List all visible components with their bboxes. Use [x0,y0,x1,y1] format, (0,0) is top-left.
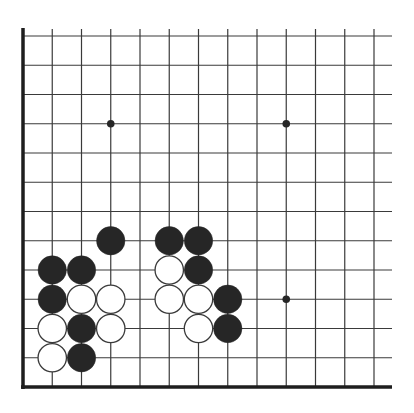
white-stone[interactable] [155,256,183,284]
white-stone[interactable] [38,314,66,342]
star-point-icon [282,295,290,303]
black-stone[interactable] [97,227,125,255]
white-stone[interactable] [184,314,212,342]
white-stone[interactable] [155,285,183,313]
star-point-icon [107,120,115,128]
white-stone[interactable] [184,285,212,313]
black-stone[interactable] [67,344,95,372]
star-point-icon [282,120,290,128]
black-stone[interactable] [67,314,95,342]
black-stone[interactable] [155,227,183,255]
white-stone[interactable] [97,314,125,342]
white-stone[interactable] [38,344,66,372]
go-board[interactable] [0,0,414,413]
black-stone[interactable] [38,285,66,313]
white-stone[interactable] [97,285,125,313]
white-stone[interactable] [67,285,95,313]
black-stone[interactable] [184,227,212,255]
black-stone[interactable] [67,256,95,284]
black-stone[interactable] [38,256,66,284]
black-stone[interactable] [214,314,242,342]
black-stone[interactable] [214,285,242,313]
black-stone[interactable] [184,256,212,284]
